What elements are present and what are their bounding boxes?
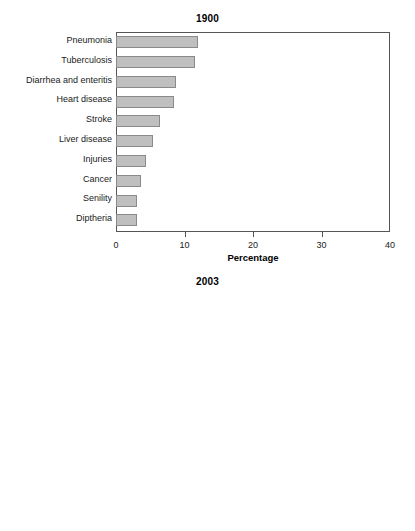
x-axis-title: Percentage [116,252,390,263]
bar-row: Diptheria [116,211,390,231]
chart-panel-1900: 1900 PneumoniaTuberculosisDiarrhea and e… [0,0,415,265]
x-axis-tick [253,232,254,237]
bar [116,76,176,88]
bar-row: Pneumonia [116,33,390,53]
bar [116,96,174,108]
category-label: Diarrhea and enteritis [0,74,112,87]
category-label: Stroke [0,113,112,126]
chart-title: 1900 [0,13,415,24]
bar [116,155,146,167]
x-axis-tick-label: 20 [238,240,268,250]
x-axis-tick-label: 10 [170,240,200,250]
bar [116,175,141,187]
bar-row: Stroke [116,112,390,132]
chart-title: 2003 [0,276,415,287]
bar-row: Senility [116,191,390,211]
bar-row: Injuries [116,152,390,172]
category-label: Heart disease [0,93,112,106]
x-axis-tick-label: 40 [375,240,405,250]
bars-area: PneumoniaTuberculosisDiarrhea and enteri… [116,33,390,231]
category-label: Liver disease [0,133,112,146]
bar [116,214,137,226]
x-axis-tick [185,232,186,237]
bar [116,195,137,207]
x-axis-tick-label: 30 [307,240,337,250]
category-label: Diptheria [0,212,112,225]
category-label: Tuberculosis [0,54,112,67]
category-label: Cancer [0,173,112,186]
category-label: Injuries [0,153,112,166]
x-axis-tick-label: 0 [101,240,131,250]
bar [116,36,198,48]
bar [116,56,195,68]
bar [116,135,153,147]
bar [116,115,160,127]
chart-panel-2003: 2003 Heart diseaseCancerStrokeChronic lu… [0,265,415,531]
bar-row: Cancer [116,172,390,192]
bar-row: Diarrhea and enteritis [116,73,390,93]
category-label: Senility [0,192,112,205]
bar-row: Liver disease [116,132,390,152]
category-label: Pneumonia [0,34,112,47]
bar-row: Tuberculosis [116,53,390,73]
figure-two-bar-charts: 1900 PneumoniaTuberculosisDiarrhea and e… [0,0,415,531]
bar-row: Heart disease [116,92,390,112]
x-axis-tick [322,232,323,237]
